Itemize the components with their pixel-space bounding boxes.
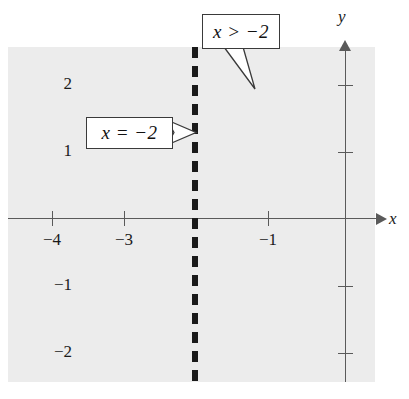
- y-tick-label: −1: [32, 275, 72, 295]
- y-axis-arrow-icon: [339, 40, 351, 51]
- x-tick-label: −4: [35, 230, 69, 250]
- x-tick-label: −1: [251, 230, 285, 250]
- x-axis-arrow-icon: [376, 213, 387, 225]
- region-callout-box: x > −2: [202, 14, 280, 49]
- y-axis: [345, 50, 346, 382]
- boundary-callout-box: x = −2: [86, 117, 173, 149]
- x-tick-mark: [52, 211, 53, 226]
- x-axis-label: x: [389, 209, 397, 229]
- boundary-dashed-line: [192, 47, 198, 382]
- x-tick-label: −3: [107, 230, 141, 250]
- y-tick-mark: [338, 286, 353, 287]
- y-axis-label: y: [338, 7, 346, 27]
- x-tick-mark: [268, 211, 269, 226]
- y-tick-label: −2: [32, 342, 72, 362]
- y-tick-mark: [338, 353, 353, 354]
- y-tick-label: 2: [32, 74, 72, 94]
- y-tick-label: 1: [32, 141, 72, 161]
- y-tick-mark: [338, 85, 353, 86]
- x-tick-mark: [124, 211, 125, 226]
- y-tick-mark: [338, 152, 353, 153]
- inequality-graph-figure: x y −4 −3 −1 2 1 −1 −2 x > −2 x = −2: [0, 0, 409, 399]
